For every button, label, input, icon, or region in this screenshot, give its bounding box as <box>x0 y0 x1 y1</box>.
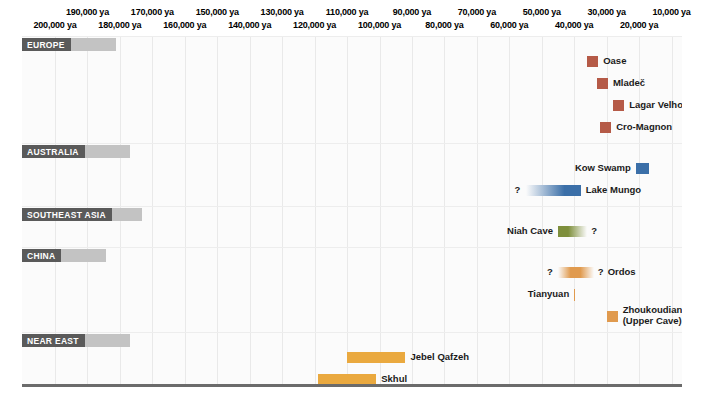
time-axis: 200,000 ya190,000 ya180,000 ya170,000 ya… <box>0 0 704 34</box>
site-label: Kow Swamp <box>22 162 631 173</box>
region-header-badge: NEAR EAST <box>22 334 85 347</box>
gridline-vertical <box>217 36 218 387</box>
region-header-label: CHINA <box>27 251 55 261</box>
gridline-vertical <box>672 36 673 387</box>
axis-tick-label: 100,000 ya <box>358 20 401 30</box>
uncertainty-marker: ? <box>515 184 521 195</box>
gridline-vertical <box>639 36 640 387</box>
region-header-tail <box>61 249 106 262</box>
axis-tick-label: 20,000 ya <box>620 20 658 30</box>
site-bar <box>558 267 594 278</box>
region-header-badge: SOUTHEAST ASIA <box>22 208 112 221</box>
site-label: Cro-Magnon <box>616 121 672 132</box>
plot-bottom-rule <box>22 384 682 387</box>
gridline-vertical <box>185 36 186 387</box>
uncertainty-marker: ? <box>547 266 553 277</box>
gridline-vertical <box>282 36 283 387</box>
gridline-horizontal <box>22 36 682 37</box>
gridline-horizontal <box>22 206 682 207</box>
site-label: Oase <box>603 55 626 66</box>
site-label: Mladeč <box>613 77 645 88</box>
axis-tick-label: 180,000 ya <box>98 20 141 30</box>
site-bar <box>347 352 405 363</box>
site-bar <box>636 163 649 174</box>
site-label: Ordos <box>608 266 636 277</box>
gridline-horizontal <box>22 143 682 144</box>
site-bar <box>600 122 611 133</box>
region-header-tail <box>85 334 130 347</box>
site-label: Lake Mungo <box>586 184 641 195</box>
axis-tick-label: 190,000 ya <box>66 7 109 17</box>
uncertainty-marker: ? <box>591 225 597 236</box>
site-bar <box>597 78 608 89</box>
plot-area: EUROPEOaseMladečLagar VelhoCro-MagnonAUS… <box>22 36 682 387</box>
site-bar <box>526 185 581 196</box>
region-header-label: NEAR EAST <box>27 336 79 346</box>
site-bar <box>558 226 587 237</box>
gridline-horizontal <box>22 332 682 333</box>
region-header-australia: AUSTRALIA <box>22 145 130 158</box>
axis-tick-label: 170,000 ya <box>131 7 174 17</box>
gridline-vertical <box>315 36 316 387</box>
gridline-horizontal <box>22 247 682 248</box>
gridline-vertical <box>380 36 381 387</box>
region-header-near-east: NEAR EAST <box>22 334 130 347</box>
gridline-vertical <box>444 36 445 387</box>
site-label: Skhul <box>381 373 407 384</box>
axis-tick-label: 150,000 ya <box>196 7 239 17</box>
region-header-tail <box>71 38 116 51</box>
axis-tick-label: 60,000 ya <box>490 20 528 30</box>
region-header-badge: CHINA <box>22 249 61 262</box>
site-label: Tianyuan <box>22 288 569 299</box>
site-bar <box>613 100 624 111</box>
axis-tick-label: 50,000 ya <box>523 7 561 17</box>
site-bar <box>607 311 618 322</box>
gridline-vertical <box>574 36 575 387</box>
gridline-vertical <box>477 36 478 387</box>
gridline-vertical <box>250 36 251 387</box>
site-label: Zhoukoudian(Upper Cave) <box>623 305 682 326</box>
axis-tick-label: 30,000 ya <box>588 7 626 17</box>
region-header-label: EUROPE <box>27 40 65 50</box>
gridline-vertical <box>542 36 543 387</box>
axis-tick-label: 10,000 ya <box>652 7 690 17</box>
fossil-timeline-chart: 200,000 ya190,000 ya180,000 ya170,000 ya… <box>0 0 704 401</box>
axis-tick-label: 80,000 ya <box>425 20 463 30</box>
region-header-europe: EUROPE <box>22 38 116 51</box>
uncertainty-marker: ? <box>598 266 604 277</box>
gridline-vertical <box>152 36 153 387</box>
site-label: Lagar Velho <box>629 99 682 110</box>
region-header-label: SOUTHEAST ASIA <box>27 210 106 220</box>
region-header-tail <box>85 145 130 158</box>
axis-tick-label: 40,000 ya <box>555 20 593 30</box>
axis-tick-label: 130,000 ya <box>261 7 304 17</box>
region-header-badge: EUROPE <box>22 38 71 51</box>
gridline-vertical <box>509 36 510 387</box>
axis-tick-label: 90,000 ya <box>393 7 431 17</box>
region-header-badge: AUSTRALIA <box>22 145 85 158</box>
region-header-tail <box>112 208 142 221</box>
region-header-china: CHINA <box>22 249 106 262</box>
axis-tick-label: 70,000 ya <box>458 7 496 17</box>
axis-tick-label: 140,000 ya <box>228 20 271 30</box>
axis-tick-label: 110,000 ya <box>326 7 369 17</box>
site-bar <box>587 56 598 67</box>
region-header-southeast-asia: SOUTHEAST ASIA <box>22 208 142 221</box>
region-header-label: AUSTRALIA <box>27 147 79 157</box>
axis-tick-label: 200,000 ya <box>33 20 76 30</box>
gridline-vertical <box>412 36 413 387</box>
site-marker-tick <box>574 289 575 301</box>
site-label: Jebel Qafzeh <box>410 351 469 362</box>
gridline-vertical <box>347 36 348 387</box>
axis-tick-label: 160,000 ya <box>163 20 206 30</box>
site-label: Niah Cave <box>22 225 553 236</box>
axis-tick-label: 120,000 ya <box>293 20 336 30</box>
